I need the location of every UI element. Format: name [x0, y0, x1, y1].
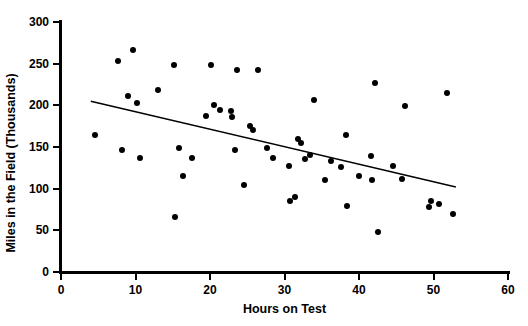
data-point: [322, 177, 328, 183]
data-point: [155, 87, 161, 93]
y-tick-label: 100: [29, 182, 49, 196]
trendline: [61, 22, 508, 272]
data-point: [399, 176, 405, 182]
x-tick: 0: [60, 274, 62, 280]
data-point: [343, 132, 349, 138]
x-tick-label: 30: [278, 283, 291, 297]
x-tick: 20: [209, 274, 211, 280]
scatter-chart: Miles in the Field (Thousands) Hours on …: [0, 0, 528, 326]
data-point: [444, 90, 450, 96]
x-tick: 40: [358, 274, 360, 280]
y-tick: 200: [53, 104, 59, 106]
y-tick: 0: [53, 271, 59, 273]
x-tick-label: 20: [203, 283, 216, 297]
x-tick: 10: [135, 274, 137, 280]
data-point: [232, 147, 238, 153]
data-point: [255, 67, 261, 73]
y-tick-label: 150: [29, 140, 49, 154]
data-point: [298, 140, 304, 146]
data-point: [426, 204, 432, 210]
x-tick-label: 10: [129, 283, 142, 297]
plot-area: [61, 22, 508, 272]
y-tick-label: 250: [29, 57, 49, 71]
x-tick: 50: [433, 274, 435, 280]
x-tick: 60: [507, 274, 509, 280]
data-point: [264, 145, 270, 151]
data-point: [137, 155, 143, 161]
x-tick: 30: [284, 274, 286, 280]
y-tick-label: 200: [29, 98, 49, 112]
x-tick-label: 50: [427, 283, 440, 297]
y-tick: 150: [53, 146, 59, 148]
y-tick: 300: [53, 21, 59, 23]
data-point: [428, 198, 434, 204]
data-point: [172, 214, 178, 220]
data-point: [369, 177, 375, 183]
data-point: [292, 194, 298, 200]
x-tick-label: 60: [501, 283, 514, 297]
data-point: [270, 155, 276, 161]
y-tick: 250: [53, 63, 59, 65]
y-tick-label: 50: [36, 223, 49, 237]
data-point: [130, 47, 136, 53]
data-point: [450, 211, 456, 217]
data-point: [134, 100, 140, 106]
data-point: [92, 132, 98, 138]
y-axis-title: Miles in the Field (Thousands): [0, 0, 22, 326]
data-point: [328, 158, 334, 164]
data-point: [234, 67, 240, 73]
data-point: [171, 62, 177, 68]
x-axis-title: Hours on Test: [61, 302, 508, 316]
y-tick: 50: [53, 229, 59, 231]
y-tick-label: 0: [42, 265, 49, 279]
data-point: [119, 147, 125, 153]
x-tick-label: 0: [58, 283, 65, 297]
data-point: [241, 182, 247, 188]
y-tick-label: 300: [29, 15, 49, 29]
y-tick: 100: [53, 188, 59, 190]
data-point: [203, 113, 209, 119]
data-point: [189, 155, 195, 161]
data-point: [176, 145, 182, 151]
x-tick-label: 40: [352, 283, 365, 297]
data-point: [115, 58, 121, 64]
